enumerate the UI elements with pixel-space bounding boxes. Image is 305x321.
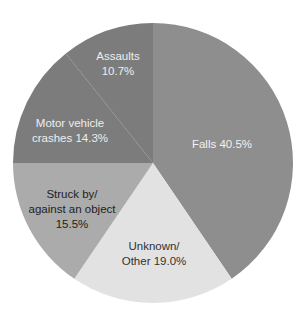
pie-chart (0, 0, 305, 321)
label-unknown-other: Unknown/ Other 19.0% (122, 239, 187, 269)
label-struck-by: Struck by/ against an object 15.5% (29, 187, 116, 232)
label-assaults: Assaults 10.7% (96, 49, 139, 79)
label-falls: Falls 40.5% (192, 137, 252, 152)
label-motor-vehicle: Motor vehicle crashes 14.3% (32, 116, 108, 146)
